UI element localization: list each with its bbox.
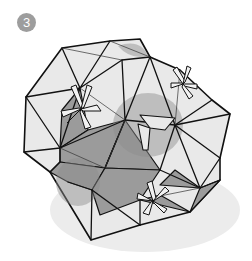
origami-polyhedron-illustration: [0, 0, 252, 261]
